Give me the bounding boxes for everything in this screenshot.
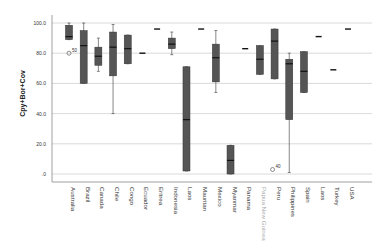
- box-australia: 50Australia: [66, 23, 78, 212]
- box-panama: Panama: [242, 49, 253, 211]
- iqr-box: [183, 67, 190, 171]
- x-tick-label: Mexico: [217, 187, 224, 207]
- box-laos: Laos: [183, 67, 195, 201]
- box-indonesia: Indonesia: [168, 32, 180, 214]
- iqr-box: [300, 52, 307, 93]
- iqr-box: [256, 46, 263, 75]
- x-tick-label: Spain: [305, 187, 312, 203]
- x-tick-label: Philippines: [290, 187, 297, 217]
- y-tick-label: 60.0: [36, 80, 46, 86]
- iqr-box: [124, 35, 131, 64]
- x-tick-label: Mauritan: [202, 187, 209, 212]
- x-tick-label: Eritrea: [158, 187, 165, 206]
- x-tick-label: USA: [349, 187, 356, 201]
- iqr-box: [168, 38, 175, 49]
- x-tick-label: Myanmar: [232, 187, 239, 213]
- box-turkey: Turkey: [330, 70, 341, 207]
- x-tick-label: Peru: [276, 187, 283, 201]
- x-tick-label: Ecuador: [143, 187, 150, 210]
- outlier-label: 40: [276, 164, 282, 169]
- y-tick-label: 40.0: [36, 111, 46, 117]
- x-tick-label: Laos: [320, 187, 327, 200]
- box-usa: USA: [345, 29, 356, 201]
- y-tick-label: .0: [42, 171, 46, 177]
- box-congo: Congo: [124, 35, 136, 206]
- box-brazil: Brazil: [80, 23, 92, 202]
- box-eritrea: Eritrea: [154, 29, 165, 206]
- box-chile: Chile: [110, 25, 122, 202]
- iqr-box: [271, 29, 278, 79]
- box-spain: Spain: [300, 52, 312, 204]
- iqr-box: [66, 25, 73, 39]
- box-laos: Laos: [316, 37, 327, 201]
- iqr-box: [286, 59, 293, 119]
- box-mauritan: Mauritan: [198, 29, 209, 212]
- box-myanmar: Myanmar: [227, 145, 239, 212]
- y-tick-label: 100.0: [33, 20, 46, 26]
- boxplot-chart: 100.080.060.040.020.0.050AustraliaBrazil…: [0, 0, 389, 248]
- x-tick-label: Canada: [99, 187, 106, 209]
- box-mexico: Mexico: [212, 31, 224, 208]
- iqr-box: [227, 145, 234, 174]
- y-tick-label: 20.0: [36, 141, 46, 147]
- iqr-box: [212, 44, 219, 82]
- x-tick-label: Congo: [129, 187, 136, 206]
- box-canada: Canada: [95, 38, 107, 209]
- y-axis-title: Cpy+Bor+Cov: [19, 54, 26, 134]
- x-tick-label: Panama: [246, 187, 253, 211]
- box-philippines: Philippines: [286, 53, 298, 217]
- box-peru: 40Peru: [271, 29, 283, 201]
- x-tick-label: Indonesia: [173, 187, 180, 214]
- x-tick-label: Chile: [114, 187, 121, 202]
- outlier-label: 50: [72, 48, 78, 53]
- iqr-box: [110, 32, 117, 76]
- x-tick-label: Turkey: [334, 187, 341, 207]
- iqr-box: [80, 31, 87, 84]
- x-tick-label: Papua New Guinea: [261, 187, 268, 241]
- outlier-marker: [271, 167, 275, 171]
- x-tick-label: Brazil: [85, 187, 92, 202]
- y-tick-label: 80.0: [36, 50, 46, 56]
- x-tick-label: Laos: [187, 187, 194, 200]
- x-tick-label: Australia: [70, 187, 77, 212]
- box-ecuador: Ecuador: [139, 53, 150, 210]
